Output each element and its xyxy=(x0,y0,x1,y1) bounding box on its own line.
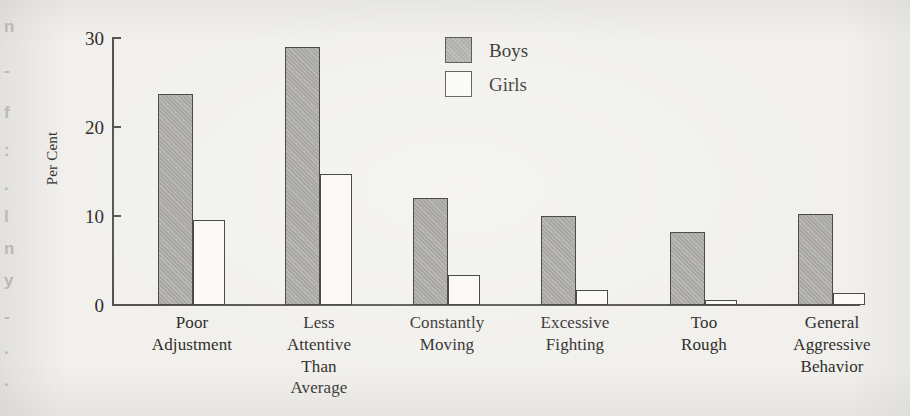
legend: Boys Girls xyxy=(445,33,528,101)
bar-girls-6 xyxy=(833,293,865,305)
x-axis-label-line: Behavior xyxy=(757,356,907,378)
bar-chart: Per Cent 0102030 PoorAdjustmentLessAtten… xyxy=(0,0,910,416)
bar-boys-6 xyxy=(798,214,833,305)
chart-page: n-f:.lny-.. Per Cent 0102030 PoorAdjustm… xyxy=(0,0,910,416)
bar-girls-4 xyxy=(576,290,608,305)
x-axis-label-line: General xyxy=(757,312,907,334)
legend-label-boys: Boys xyxy=(489,41,528,60)
bar-girls-3 xyxy=(448,275,480,305)
legend-swatch-girls-icon xyxy=(445,71,472,97)
bar-girls-5 xyxy=(705,300,737,305)
x-axis-label-line: Fighting xyxy=(500,334,650,356)
bar-boys-4 xyxy=(541,216,576,305)
x-axis-label-line: Average xyxy=(244,377,394,399)
bar-boys-5 xyxy=(670,232,705,305)
legend-item-girls: Girls xyxy=(445,67,528,101)
bar-boys-2 xyxy=(285,47,320,305)
legend-item-boys: Boys xyxy=(445,33,528,67)
x-axis-label-6: GeneralAggressiveBehavior xyxy=(757,312,907,377)
x-axis-label-line: Aggressive xyxy=(757,334,907,356)
bar-boys-1 xyxy=(158,94,193,305)
bar-boys-3 xyxy=(413,198,448,305)
legend-label-girls: Girls xyxy=(489,75,527,94)
bar-girls-1 xyxy=(193,220,225,305)
bar-girls-2 xyxy=(320,174,352,305)
x-axis-label-4: ExcessiveFighting xyxy=(500,312,650,356)
x-axis-label-line: Than xyxy=(244,356,394,378)
legend-swatch-boys-icon xyxy=(445,37,472,63)
x-axis-label-line: Excessive xyxy=(500,312,650,334)
